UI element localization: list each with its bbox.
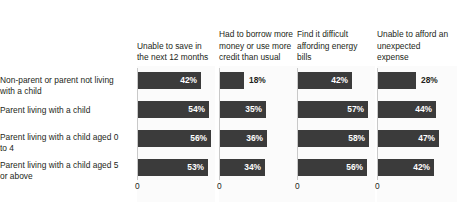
bar-value-3-1: 44% [378, 101, 436, 118]
bar-value-1-3: 34% [220, 159, 265, 176]
panel-header-2: Find it difficult affording energy bills [297, 29, 371, 64]
bar-value-1-2: 36% [220, 130, 267, 147]
bar-value-1-0: 18% [249, 72, 266, 89]
panel-energy-bills: Find it difficult affording energy bills… [297, 0, 375, 202]
category-label-0: Non-parent or parent not living with a c… [0, 75, 122, 96]
panel-header-0: Unable to save in the next 12 months [137, 41, 211, 64]
category-label-1: Parent living with a child [0, 105, 122, 116]
panel-unexpected-expense: Unable to afford an unexpected expense 0… [377, 0, 457, 202]
axis-tick-label-3: 0 [375, 181, 380, 191]
bar-value-0-0: 42% [138, 72, 201, 89]
bar-value-2-1: 57% [298, 101, 368, 118]
panel-header-3: Unable to afford an unexpected expense [377, 29, 453, 64]
panel-header-1: Had to borrow more money or use more cre… [219, 29, 293, 64]
axis-tick-label-2: 0 [295, 181, 300, 191]
bar-1-0[interactable] [220, 72, 244, 89]
panel-had-to-borrow: Had to borrow more money or use more cre… [219, 0, 297, 202]
bar-value-3-3: 42% [378, 159, 434, 176]
axis-tick-label-1: 0 [217, 181, 222, 191]
bar-value-2-2: 58% [298, 130, 369, 147]
bar-value-0-1: 54% [138, 101, 209, 118]
category-label-column: Non-parent or parent not living with a c… [0, 0, 130, 202]
category-label-2: Parent living with a child aged 0 to 4 [0, 132, 122, 153]
axis-tick-label-0: 0 [135, 181, 140, 191]
bar-value-3-0: 28% [421, 72, 438, 89]
bar-value-0-2: 56% [138, 130, 211, 147]
bar-value-0-3: 53% [138, 159, 208, 176]
bar-value-2-3: 56% [298, 159, 367, 176]
bar-value-1-1: 35% [220, 101, 266, 118]
category-label-3: Parent living with a child aged 5 or abo… [0, 160, 122, 181]
bar-value-2-0: 42% [298, 72, 352, 89]
bar-3-0[interactable] [378, 72, 416, 89]
bar-value-3-2: 47% [378, 130, 439, 147]
grouped-bar-chart: Non-parent or parent not living with a c… [0, 0, 468, 202]
panel-unable-to-save: Unable to save in the next 12 months 0 4… [137, 0, 215, 202]
